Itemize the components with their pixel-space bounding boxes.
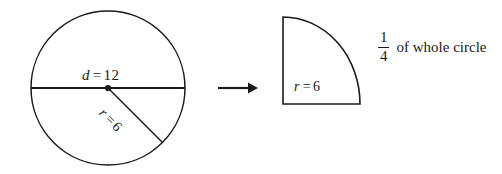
- fraction-numerator: 1: [378, 30, 390, 47]
- diameter-value: 12: [104, 67, 120, 83]
- quarter-radius-value: 6: [313, 79, 320, 94]
- geometry-figure: d=12 r=6 r=6 1 4 of whole circle: [0, 0, 502, 174]
- quarter-radius-label: r=6: [294, 80, 320, 94]
- right-arrow-icon: [218, 83, 258, 94]
- one-fourth-fraction: 1 4: [378, 30, 390, 65]
- diameter-equals: =: [91, 67, 104, 83]
- fraction-caption-group: 1 4 of whole circle: [378, 30, 486, 65]
- quarter-radius-variable: r: [294, 79, 301, 94]
- figure-canvas: [0, 0, 502, 174]
- diameter-variable: d: [82, 67, 91, 83]
- quarter-radius-equals: =: [301, 79, 313, 94]
- fraction-denominator: 4: [378, 48, 390, 65]
- circle-center-dot: [105, 85, 111, 91]
- diameter-label: d=12: [82, 68, 119, 83]
- caption-label: of whole circle: [397, 39, 487, 56]
